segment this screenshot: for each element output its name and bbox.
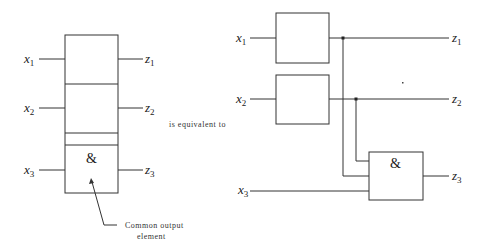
label-x3: x3 [237,182,249,199]
label-x3: x3 [23,162,35,179]
label-z3: z3 [451,168,462,185]
element-box-1 [276,13,329,63]
equivalence-diagram: x1 x2 x3 z1 z2 z3 & Common output elemen… [0,0,483,251]
junction-dot [355,98,358,101]
label-x2: x2 [23,100,34,117]
label-z2: z2 [451,91,462,108]
label-z3: z3 [144,162,155,179]
annotation-text-line2: element [137,232,166,241]
label-z1: z1 [144,51,155,68]
label-x1: x1 [23,51,34,68]
label-x1: x1 [235,30,246,47]
junction-dot [342,37,345,40]
combined-element-box [65,35,118,193]
stray-dot [402,82,404,84]
right-separate-elements: x1 x2 x3 z1 z2 z3 & [235,13,462,200]
annotation-arrow-line [92,182,117,225]
label-z1: z1 [451,30,462,47]
annotation-text-line1: Common output [125,221,184,230]
arrowhead-icon [89,178,94,184]
left-combined-element: x1 x2 x3 z1 z2 z3 & Common output elemen… [23,35,184,241]
label-z2: z2 [144,100,155,117]
branch-wire-z2 [356,99,369,161]
and-symbol: & [390,156,401,171]
label-x2: x2 [235,91,246,108]
element-box-2 [276,75,329,124]
and-symbol: & [86,151,97,166]
equivalence-text: is equivalent to [169,120,226,129]
